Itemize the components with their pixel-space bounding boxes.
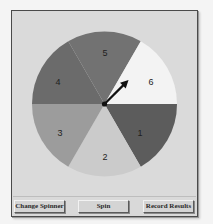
segment-label-3: 3: [57, 128, 62, 138]
segment-label-4: 4: [55, 77, 60, 87]
record-results-button[interactable]: Record Results: [143, 200, 194, 213]
segment-label-2: 2: [102, 152, 107, 162]
pointer-hub-icon: [102, 101, 107, 106]
change-spinner-button[interactable]: Change Spinner: [14, 200, 65, 213]
button-bar: Change Spinner Spin Record Results: [12, 198, 197, 216]
spinner-wheel[interactable]: 1 2 3 4 5 6: [13, 12, 196, 196]
spinner-canvas-panel: 1 2 3 4 5 6: [13, 12, 196, 197]
spinner-app-window: 1 2 3 4 5 6 Change Spinner Spin Record R…: [11, 10, 198, 217]
segment-label-1: 1: [137, 128, 142, 138]
segment-label-5: 5: [102, 48, 107, 58]
spin-button[interactable]: Spin: [78, 200, 129, 213]
segment-label-6: 6: [148, 77, 153, 87]
